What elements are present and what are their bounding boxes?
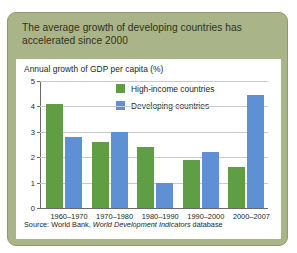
y-axis-line [40,81,41,209]
figure-title: The average growth of developing countri… [22,21,275,47]
bar [202,152,219,208]
bar [183,160,200,208]
bar-group [133,81,179,208]
y-tick-label: 1 [31,178,35,187]
figure-header: The average growth of developing countri… [8,13,288,59]
y-tick-mark [37,106,40,107]
y-tick-mark [37,81,40,82]
bar-group [179,81,225,208]
bar [46,104,63,208]
bar [92,142,109,208]
figure-card: The average growth of developing countri… [7,12,288,246]
y-tick-mark [37,132,40,133]
y-tick-label: 4 [31,102,35,111]
y-tick-label: 0 [31,204,35,213]
source-prefix: Source: World Bank, [24,220,93,229]
bar [247,95,264,208]
bar-group [88,81,134,208]
bar [65,137,82,208]
source-suffix: database [191,220,223,229]
bar [228,167,245,208]
y-tick-mark [37,183,40,184]
chart-panel: Annual growth of GDP per capita (%) High… [16,59,281,239]
x-tick-label: 2000–2007 [220,212,282,221]
bar-group [224,81,270,208]
source-note: Source: World Bank, World Development In… [24,220,223,229]
y-tick-label: 3 [31,127,35,136]
bar [137,147,154,208]
y-tick-label: 5 [31,77,35,86]
plot-area: 012345 1960–19701970–19801980–19901990–2… [40,81,268,208]
y-axis-title: Annual growth of GDP per capita (%) [24,64,163,74]
y-tick-mark [37,208,40,209]
y-tick-label: 2 [31,153,35,162]
bar-group [42,81,88,208]
bar [111,132,128,208]
bar [156,183,173,208]
y-tick-mark [37,157,40,158]
x-axis-line [40,208,268,209]
source-publication: World Development Indicators [93,220,191,229]
